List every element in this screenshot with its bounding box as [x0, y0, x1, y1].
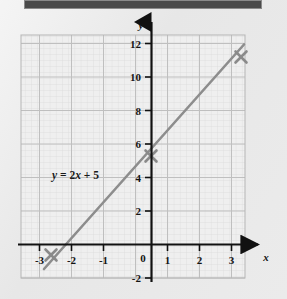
equation-annotation: y = 2x + 5	[50, 169, 99, 182]
y-tick-label-4: 4	[136, 172, 142, 184]
x-tick-label-0: 0	[140, 252, 146, 264]
y-axis-label: y	[137, 19, 144, 31]
x-tick-label-1: 1	[165, 254, 171, 266]
x-tick-label-3: 3	[229, 254, 235, 266]
y-tick-label-10: 10	[130, 71, 142, 83]
y-tick-label-8: 8	[136, 105, 142, 117]
x-tick-label--2: -2	[67, 254, 77, 266]
x-tick-label-2: 2	[197, 254, 203, 266]
graph-figure: -3 -2 -1 0 1 2 3 12 10 8 6 4 2 -2 y x y …	[0, 0, 287, 299]
x-tick-label--3: -3	[35, 254, 45, 266]
coordinate-plot: -3 -2 -1 0 1 2 3 12 10 8 6 4 2 -2 y x y …	[0, 0, 287, 299]
y-tick-label-6: 6	[136, 138, 142, 150]
x-tick-label--1: -1	[99, 254, 108, 266]
equation-rest: + 5	[81, 169, 99, 181]
equation-equals: = 2	[57, 169, 75, 181]
x-axis-label: x	[262, 251, 269, 263]
y-tick-label--2: -2	[132, 272, 142, 284]
y-tick-label-12: 12	[130, 38, 142, 50]
y-tick-label-2: 2	[136, 205, 142, 217]
